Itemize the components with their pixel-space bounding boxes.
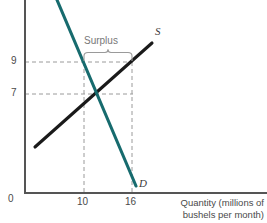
x-axis-title-line1: Quantity (millions of xyxy=(148,197,264,209)
dashed-guides xyxy=(25,62,133,192)
y-tick-label-7: 7 xyxy=(11,87,17,98)
chart-plot-area xyxy=(0,0,267,223)
x-tick-label-16: 16 xyxy=(125,196,136,207)
x-axis-title: Quantity (millions of bushels per month) xyxy=(148,197,264,220)
demand-curve xyxy=(57,0,136,186)
supply-demand-surplus-figure: eat nel) Quantity (millions of bushels p… xyxy=(0,0,267,223)
origin-label: 0 xyxy=(8,193,14,204)
supply-curve-label: S xyxy=(155,25,161,37)
supply-curve xyxy=(35,43,152,147)
surplus-brace xyxy=(84,50,132,62)
surplus-label: Surplus xyxy=(84,35,118,46)
x-tick-label-10: 10 xyxy=(77,196,88,207)
demand-curve-label: D xyxy=(139,177,147,189)
x-axis-title-line2: bushels per month) xyxy=(148,209,264,221)
axis-lines xyxy=(24,0,267,193)
y-tick-label-9: 9 xyxy=(11,55,17,66)
